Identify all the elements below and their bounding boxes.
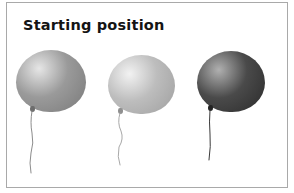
page-title: Starting position xyxy=(23,17,165,33)
balloon-illustration-panel: Starting position xyxy=(0,0,294,193)
balloon-center-string xyxy=(117,113,127,165)
balloon-right xyxy=(197,51,265,174)
balloon-right-body xyxy=(197,51,265,112)
balloon-center xyxy=(108,55,175,178)
balloon-center-body xyxy=(108,55,175,114)
balloon-left-string xyxy=(29,111,39,173)
balloon-right-string xyxy=(207,110,217,160)
balloon-left xyxy=(16,50,86,186)
balloon-left-body xyxy=(16,50,86,112)
